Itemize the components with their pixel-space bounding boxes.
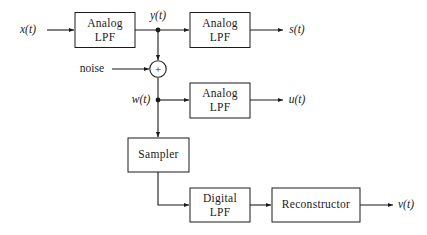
junction-dot-y (156, 28, 161, 33)
block-digital-lpf-label-line2: LPF (210, 206, 231, 218)
block-diagram: Analog LPF Analog LPF Analog LPF Sampler… (0, 0, 427, 235)
diagram-canvas: Analog LPF Analog LPF Analog LPF Sampler… (0, 0, 427, 235)
signal-label-w: w(t) (132, 93, 151, 106)
summing-junction-plus-sign: + (155, 63, 161, 75)
block-sampler-label: Sampler (138, 148, 178, 161)
block-reconstructor-label: Reconstructor (282, 198, 350, 210)
block-analog-lpf-2-label-line1: Analog (202, 17, 238, 30)
signal-label-s: s(t) (289, 23, 305, 36)
signal-label-noise: noise (80, 62, 104, 74)
block-analog-lpf-3-label-line1: Analog (202, 87, 238, 100)
signal-label-y: y(t) (149, 9, 166, 22)
signal-label-input: x(t) (19, 23, 36, 36)
block-analog-lpf-1-label-line2: LPF (95, 31, 116, 43)
signal-label-v: v(t) (398, 198, 414, 211)
block-analog-lpf-3-label-line2: LPF (210, 101, 231, 113)
wire-sampler-to-digital-lpf (158, 172, 189, 205)
block-analog-lpf-1-label-line1: Analog (87, 17, 123, 30)
block-analog-lpf-2-label-line2: LPF (210, 31, 231, 43)
junction-dot-w (156, 98, 161, 103)
block-digital-lpf-label-line1: Digital (203, 192, 237, 205)
signal-label-u: u(t) (289, 93, 306, 106)
